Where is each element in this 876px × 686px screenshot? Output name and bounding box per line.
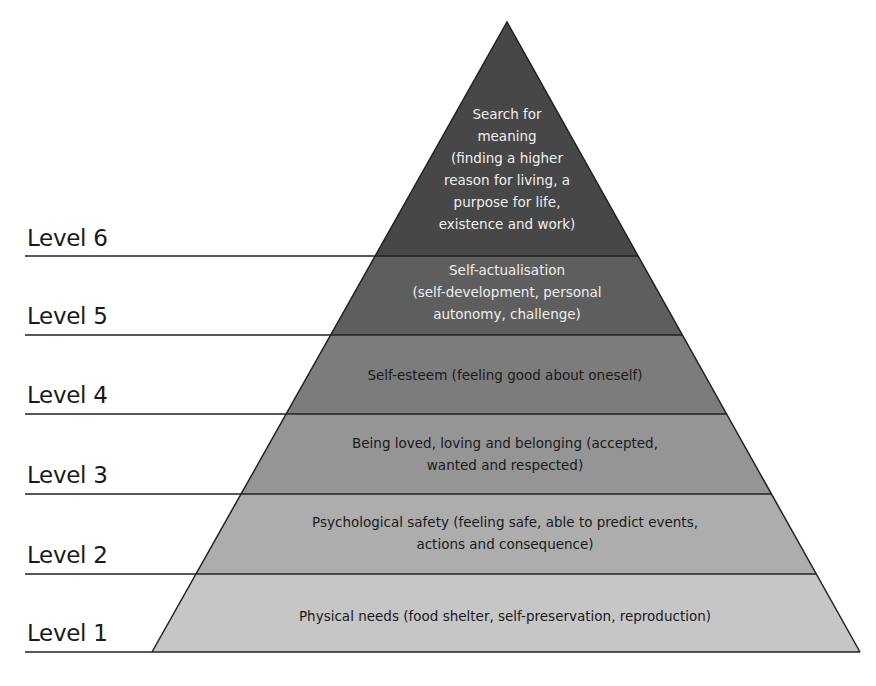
tier-3-text: Being loved, loving and belonging (accep… — [352, 432, 658, 476]
tier-4-line: Self-esteem (feeling good about oneself) — [367, 364, 642, 386]
tier-1-text: Physical needs (food shelter, self-prese… — [299, 605, 711, 627]
tier-3-line: Being loved, loving and belonging (accep… — [352, 432, 658, 454]
tier-6-text: Search for meaning (finding a higher rea… — [439, 103, 576, 235]
tier-5-text: Self-actualisation (self-development, pe… — [412, 259, 601, 325]
tier-2-line: actions and consequence) — [312, 533, 698, 555]
tier-2-line: Psychological safety (feeling safe, able… — [312, 511, 698, 533]
level-2-label: Level 2 — [27, 542, 108, 568]
tier-6-line: reason for living, a — [439, 169, 576, 191]
level-3-label: Level 3 — [27, 462, 108, 488]
tier-6-line: purpose for life, — [439, 191, 576, 213]
tier-4-text: Self-esteem (feeling good about oneself) — [367, 364, 642, 386]
tier-1-line: Physical needs (food shelter, self-prese… — [299, 605, 711, 627]
tier-6-line: existence and work) — [439, 213, 576, 235]
level-4-label: Level 4 — [27, 382, 108, 408]
pyramid-diagram: Level 6 Level 5 Level 4 Level 3 Level 2 … — [0, 0, 876, 686]
level-6-label: Level 6 — [27, 225, 108, 251]
tier-2-text: Psychological safety (feeling safe, able… — [312, 511, 698, 555]
level-5-label: Level 5 — [27, 303, 108, 329]
tier-6-line: Search for — [439, 103, 576, 125]
tier-5-line: (self-development, personal — [412, 281, 601, 303]
level-1-label: Level 1 — [27, 620, 108, 646]
tier-5-line: autonomy, challenge) — [412, 303, 601, 325]
tier-6-line: meaning — [439, 125, 576, 147]
tier-6-line: (finding a higher — [439, 147, 576, 169]
tier-5-line: Self-actualisation — [412, 259, 601, 281]
tier-3-line: wanted and respected) — [352, 454, 658, 476]
